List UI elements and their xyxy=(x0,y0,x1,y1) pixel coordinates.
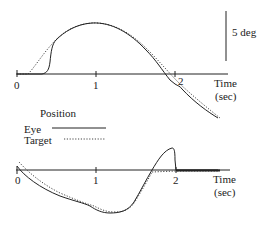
top-eye-series xyxy=(17,23,218,118)
legend: Position Eye Target xyxy=(24,107,106,146)
bottom-panel: 0 1 2 Time (sec) xyxy=(15,148,236,213)
legend-title: Position xyxy=(40,107,77,119)
bottom-tick-label-1: 1 xyxy=(93,174,99,186)
scale-bar-label: 5 deg xyxy=(232,26,257,38)
bottom-tick-label-2: 2 xyxy=(173,174,179,186)
bottom-tick-label-0: 0 xyxy=(15,174,21,186)
top-panel: 0 1 2 Time (sec) 5 deg xyxy=(14,11,257,118)
legend-target-label: Target xyxy=(24,134,52,146)
top-tick-label-1: 1 xyxy=(93,79,99,91)
bottom-xlabel-sec: (sec) xyxy=(214,186,236,199)
top-tick-label-0: 0 xyxy=(14,79,20,91)
top-xlabel-sec: (sec) xyxy=(215,90,237,103)
bottom-xlabel-time: Time xyxy=(213,173,236,185)
bottom-eye-series xyxy=(17,148,218,213)
chart-canvas: 0 1 2 Time (sec) 5 deg Position Eye Targ… xyxy=(0,0,270,235)
top-xlabel-time: Time xyxy=(214,77,237,89)
